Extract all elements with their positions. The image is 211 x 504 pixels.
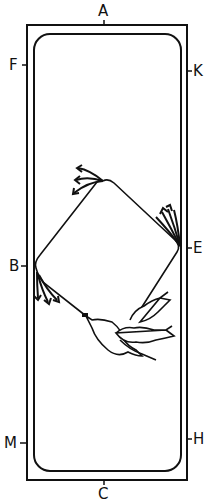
arrow-cluster-top xyxy=(73,165,103,194)
letter-c: C xyxy=(98,487,108,502)
arena-border xyxy=(27,25,187,480)
letter-a: A xyxy=(98,4,108,19)
letter-f: F xyxy=(9,58,18,73)
horse-3 xyxy=(130,292,170,322)
letter-ticks xyxy=(20,20,192,485)
letter-e: E xyxy=(193,241,202,256)
letter-m: M xyxy=(4,436,17,451)
arrow-cluster-left xyxy=(34,272,59,304)
letter-k: K xyxy=(193,64,203,79)
letter-b: B xyxy=(9,259,19,274)
track-path xyxy=(34,34,181,471)
circle-path xyxy=(36,180,179,316)
letter-h: H xyxy=(193,432,204,447)
horse-2 xyxy=(116,326,174,343)
dressage-arena-diagram xyxy=(0,0,211,504)
horse-silhouettes xyxy=(82,292,174,360)
